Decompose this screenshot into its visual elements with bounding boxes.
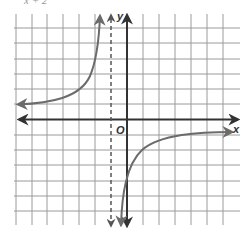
origin-label: O xyxy=(116,124,125,136)
left-branch-curve xyxy=(18,16,100,105)
x-axis-label: x xyxy=(232,123,240,135)
y-axis-label: y xyxy=(116,10,124,22)
coordinate-graph: y x O xyxy=(0,0,247,233)
